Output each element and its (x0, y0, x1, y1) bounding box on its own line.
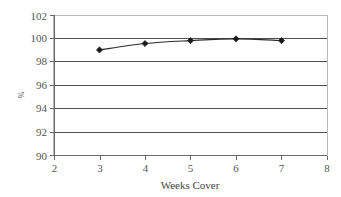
line-chart: 102 100 98 96 94 92 90 2 3 4 5 6 7 8 Wee… (0, 0, 341, 197)
x-axis-tickmarks (55, 156, 328, 161)
data-point-marker (142, 40, 148, 46)
plot-area-border (54, 16, 328, 156)
x-tick-label: 2 (52, 162, 58, 174)
x-axis-title: Weeks Cover (161, 179, 220, 191)
gridlines (54, 38, 327, 132)
y-tick-label: 100 (31, 32, 48, 44)
y-tick-label: 98 (36, 55, 48, 67)
data-point-marker (233, 36, 239, 42)
data-point-marker (96, 47, 102, 53)
x-tick-label: 5 (188, 162, 194, 174)
y-tick-label: 94 (36, 102, 48, 114)
y-axis-tick-labels: 102 100 98 96 94 92 90 (31, 10, 48, 162)
x-tick-label: 4 (143, 162, 149, 174)
y-axis-title: % (17, 91, 26, 98)
x-tick-label: 8 (324, 162, 330, 174)
x-axis-tick-labels: 2 3 4 5 6 7 8 (52, 162, 331, 174)
x-tick-label: 7 (279, 162, 285, 174)
y-tick-label: 102 (31, 10, 48, 22)
y-tick-label: 92 (36, 126, 47, 138)
x-tick-label: 3 (97, 162, 103, 174)
x-tick-label: 6 (233, 162, 239, 174)
chart-figure: 102 100 98 96 94 92 90 2 3 4 5 6 7 8 Wee… (0, 0, 341, 197)
y-tick-label: 96 (36, 79, 48, 91)
y-tick-label: 90 (36, 150, 48, 162)
axes (54, 15, 327, 156)
